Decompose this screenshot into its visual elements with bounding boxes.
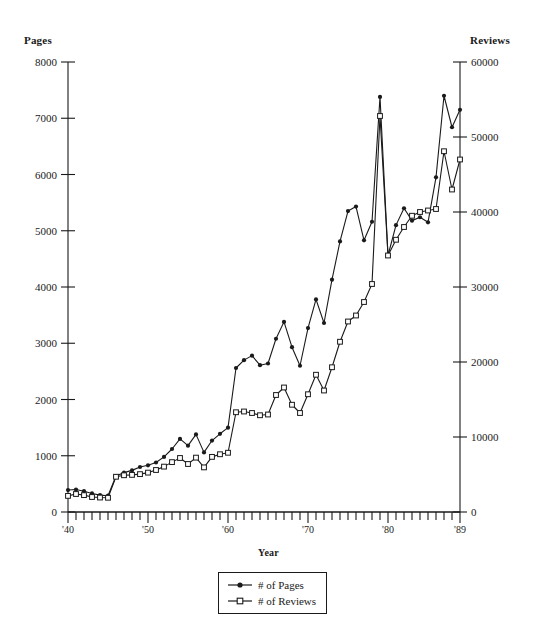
y-tick-label: 5000 — [35, 225, 57, 237]
x-tick-label: '80 — [382, 524, 394, 535]
chart-legend: # of Pages # of Reviews — [218, 572, 327, 614]
series-layer — [66, 94, 463, 501]
left-axis-title: Pages — [24, 34, 52, 46]
y-tick-label: 0 — [52, 506, 58, 518]
y-tick-label: 7000 — [35, 112, 57, 124]
x-tick-label: '70 — [302, 524, 314, 535]
legend-item-pages[interactable]: # of Pages — [227, 577, 316, 593]
y-tick-label: 1000 — [35, 450, 57, 462]
y2-tick-label: 0 — [471, 506, 477, 518]
y-tick-label: 6000 — [35, 169, 57, 181]
x-tick-label: '40 — [62, 524, 74, 535]
y-tick-label: 8000 — [35, 56, 57, 68]
y-tick-label: 2000 — [35, 394, 57, 406]
x-axis-title: Year — [0, 547, 537, 558]
series-reviews — [66, 114, 463, 501]
axes-layer — [61, 62, 467, 523]
y-tick-label: 3000 — [35, 337, 57, 349]
legend-item-reviews[interactable]: # of Reviews — [227, 593, 316, 609]
x-tick-label: '50 — [142, 524, 154, 535]
y2-tick-label: 30000 — [471, 281, 499, 293]
chart-container: Pages Reviews 01000200030004000500060007… — [0, 0, 537, 639]
y-tick-label: 4000 — [35, 281, 57, 293]
y2-tick-label: 60000 — [471, 56, 499, 68]
legend-label-reviews: # of Reviews — [258, 595, 316, 607]
legend-marker-filled-circle-icon — [227, 579, 253, 591]
y2-tick-label: 20000 — [471, 356, 499, 368]
legend-label-pages: # of Pages — [258, 579, 304, 591]
right-axis-title: Reviews — [470, 34, 510, 46]
y2-tick-label: 10000 — [471, 431, 499, 443]
y2-tick-label: 40000 — [471, 206, 499, 218]
chart-plot-area — [0, 0, 537, 639]
legend-marker-open-square-icon — [227, 595, 253, 607]
x-tick-label: '60 — [222, 524, 234, 535]
series-pages — [66, 94, 462, 498]
y2-tick-label: 50000 — [471, 131, 499, 143]
x-tick-label: '89 — [454, 524, 466, 535]
